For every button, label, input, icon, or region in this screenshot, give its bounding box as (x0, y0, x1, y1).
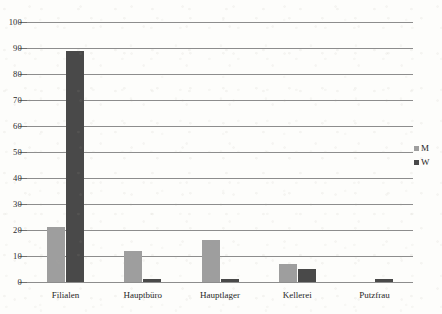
y-axis-tick-label: 70 (0, 96, 22, 105)
bar (202, 240, 220, 282)
gridline (27, 282, 413, 283)
y-axis-tick-label: 20 (0, 226, 22, 235)
legend-swatch-w-icon (414, 160, 419, 165)
y-axis-tick-label: 80 (0, 70, 22, 79)
x-axis-category-label: Filialen (27, 291, 104, 300)
gridline (27, 178, 413, 179)
bar (221, 279, 239, 282)
legend-item-m: M (414, 141, 442, 155)
bar (143, 279, 161, 282)
y-axis-tick-label: 10 (0, 252, 22, 261)
gridline (27, 100, 413, 101)
gridline (27, 204, 413, 205)
gridline (27, 48, 413, 49)
gridline (27, 126, 413, 127)
gridline (27, 230, 413, 231)
legend-item-w: W (414, 155, 442, 169)
y-axis-tick-label: 90 (0, 44, 22, 53)
bar (47, 227, 65, 282)
bar (298, 269, 316, 282)
y-axis-tick-label: 60 (0, 122, 22, 131)
y-axis-tick-label: 0 (0, 278, 22, 287)
y-axis-tick-label: 40 (0, 174, 22, 183)
chart-legend: M W (414, 141, 442, 169)
x-axis-category-label: Hauptbüro (104, 291, 181, 300)
bar (375, 279, 393, 282)
y-axis-tick-label: 50 (0, 148, 22, 157)
bar-chart: 0102030405060708090100 FilialenHauptbüro… (0, 0, 442, 314)
gridline (27, 22, 413, 23)
legend-swatch-m-icon (414, 146, 419, 151)
legend-label-w: W (421, 158, 430, 167)
legend-label-m: M (421, 144, 429, 153)
bar (66, 51, 84, 282)
gridline (27, 152, 413, 153)
y-axis-tick-label: 100 (0, 18, 22, 27)
x-axis-category-label: Hauptlager (181, 291, 258, 300)
gridline (27, 256, 413, 257)
bar (279, 264, 297, 282)
bar (124, 251, 142, 282)
y-axis-tick-label: 30 (0, 200, 22, 209)
x-axis-category-label: Kellerei (259, 291, 336, 300)
x-axis-category-label: Putzfrau (336, 291, 413, 300)
gridline (27, 74, 413, 75)
